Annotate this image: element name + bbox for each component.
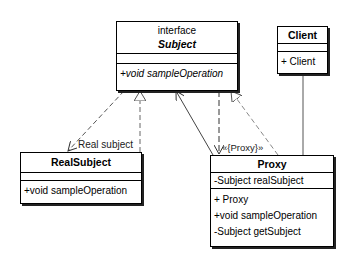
proxy-operation: -Subject getSubject [211,224,333,240]
class-client[interactable]: Client + Client [277,26,328,74]
client-operations: + Client [278,52,327,69]
client-name: Client [278,28,327,42]
realsubject-operations: +void sampleOperation [21,181,141,198]
proxy-attributes: -Subject realSubject [211,173,333,189]
proxy-attribute: -Subject realSubject [211,174,333,188]
proxy-operations: + Proxy +void sampleOperation -Subject g… [211,189,333,240]
client-attributes [278,44,327,52]
real-subject-edge-label: Real subject [78,139,133,151]
class-subject[interactable]: interface Subject +void sampleOperation [116,21,238,91]
proxy-edge-label: «{Proxy}» [222,142,263,154]
proxy-name: Proxy [211,157,333,171]
subject-stereotype: interface [117,24,237,37]
realsubject-attributes [21,173,141,181]
subject-operation: +void sampleOperation [117,67,237,81]
realsubject-name: RealSubject [21,155,141,169]
subject-name: Subject [117,37,237,51]
class-realsubject[interactable]: RealSubject +void sampleOperation [20,152,142,204]
client-operation: + Client [278,55,327,69]
proxy-operation: +void sampleOperation [211,208,333,224]
realsubject-operation: +void sampleOperation [21,184,141,198]
proxy-operation: + Proxy [211,192,333,208]
subject-operations: +void sampleOperation [117,64,237,81]
class-proxy[interactable]: Proxy -Subject realSubject + Proxy +void… [210,155,334,247]
subject-attributes [117,54,237,64]
proxy-association-line [176,91,213,155]
